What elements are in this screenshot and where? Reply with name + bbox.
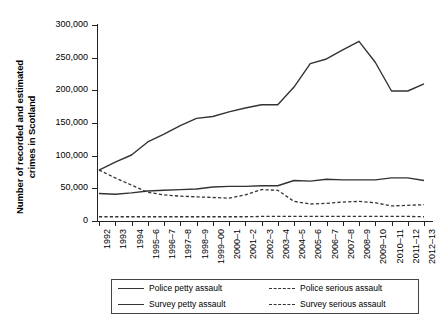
x-tick-mark [180,222,181,226]
x-tick-mark [327,222,328,226]
x-tick-mark [343,222,344,226]
x-tick-label: 1998–9 [201,229,210,259]
x-tick-label: 2001–2 [249,229,258,259]
x-tick-mark [359,222,360,226]
y-tick-label: 150,000 [26,118,88,127]
legend-item-3: Survey serious assault [265,300,416,309]
y-tick-mark [92,123,97,124]
x-tick-mark [148,222,149,226]
legend-label-1: Police serious assault [300,284,382,293]
x-tick-label: 2011–12 [412,229,421,263]
x-tick-label: 1994 [136,229,145,249]
legend-label-3: Survey serious assault [300,300,386,309]
y-tick-label: 0 [26,216,88,225]
x-tick-label: 2002–3 [266,229,275,259]
y-tick-mark [92,90,97,91]
y-tick-mark [92,156,97,157]
x-tick-label: 2007–8 [347,229,356,259]
x-tick-label: 2004–5 [298,229,307,259]
legend-item-1: Police serious assault [265,284,416,293]
chart-legend: Police petty assault Police serious assa… [111,279,419,314]
x-tick-label: 1999–00 [217,229,226,264]
legend-label-0: Police petty assault [149,284,222,293]
x-tick-mark [294,222,295,226]
x-tick-mark [99,222,100,226]
x-tick-label: 2005–6 [314,229,323,259]
x-tick-label: 2000–1 [233,229,242,259]
x-tick-mark [115,222,116,226]
x-tick-label: 2006–7 [331,229,340,259]
x-tick-label: 2012–13 [428,229,437,264]
x-tick-mark [310,222,311,226]
x-tick-label: 1992 [103,229,112,249]
x-tick-label: 2009–10 [379,229,388,264]
y-tick-label: 300,000 [26,20,88,29]
series-line-2 [99,41,424,170]
legend-line-dashed-icon [269,285,295,292]
x-tick-mark [197,222,198,226]
legend-label-2: Survey petty assault [149,300,226,309]
x-tick-mark [392,222,393,226]
x-tick-label: 1996–7 [168,229,177,259]
x-tick-label: 2008–9 [363,229,372,259]
y-tick-mark [92,25,97,26]
y-tick-label: 200,000 [26,85,88,94]
x-tick-mark [278,222,279,226]
x-tick-mark [424,222,425,226]
x-tick-label: 1997–8 [184,229,193,259]
series-line-0 [99,178,424,194]
x-tick-mark [213,222,214,226]
y-tick-label: 50,000 [26,183,88,192]
x-tick-label: 2003–4 [282,229,291,259]
x-tick-mark [262,222,263,226]
plot-area [97,25,432,221]
series-lines [97,25,432,221]
y-tick-label: 250,000 [26,53,88,62]
legend-item-2: Survey petty assault [114,300,265,309]
y-tick-label: 100,000 [26,151,88,160]
chart-figure: Number of recorded and estimated crimes … [0,0,439,319]
x-tick-mark [132,222,133,226]
x-tick-mark [229,222,230,226]
x-tick-mark [408,222,409,226]
legend-line-solid-icon [118,301,144,308]
x-tick-mark [375,222,376,226]
y-tick-mark [92,58,97,59]
x-tick-label: 2010–11 [396,229,405,263]
x-tick-mark [164,222,165,226]
y-tick-mark [92,221,97,222]
legend-item-0: Police petty assault [114,284,265,293]
x-tick-mark [245,222,246,226]
x-tick-label: 1993 [119,229,128,249]
x-tick-label: 1995–6 [152,229,161,259]
series-line-3 [99,170,424,206]
legend-line-dashed-icon [269,301,295,308]
y-axis-tick-labels: 050,000100,000150,000200,000250,000300,0… [24,0,88,319]
legend-line-solid-icon [118,285,144,292]
y-tick-mark [92,188,97,189]
